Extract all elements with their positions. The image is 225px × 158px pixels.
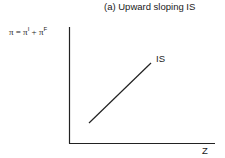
is-curve <box>89 63 151 123</box>
x-axis-label: Z <box>202 145 208 156</box>
is-curve-label: IS <box>156 53 165 64</box>
diagram-canvas <box>0 0 225 158</box>
